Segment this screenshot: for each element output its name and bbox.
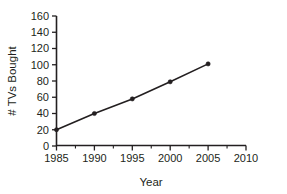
y-tick-label: 80 xyxy=(37,75,49,87)
data-point xyxy=(168,80,172,84)
y-tick-label: 20 xyxy=(37,124,49,136)
y-tick-label: 160 xyxy=(31,10,49,22)
x-tick-label: 1995 xyxy=(120,152,144,164)
data-point xyxy=(92,111,96,115)
x-tick-label: 2005 xyxy=(196,152,220,164)
y-tick-label: 100 xyxy=(31,59,49,71)
line-chart-svg: 0 20 40 60 80 100 120 140 160 xyxy=(0,0,287,194)
y-tick-label: 120 xyxy=(31,42,49,54)
y-tick-label: 140 xyxy=(31,26,49,38)
x-tick-label: 2000 xyxy=(158,152,182,164)
data-point xyxy=(206,62,210,66)
x-tick-label: 2010 xyxy=(234,152,258,164)
y-tick-label: 60 xyxy=(37,91,49,103)
x-tick-label: 1985 xyxy=(44,152,68,164)
y-axis-title: # TVs Bought xyxy=(6,45,18,115)
data-point xyxy=(130,97,134,101)
chart-container: 0 20 40 60 80 100 120 140 160 xyxy=(0,0,287,194)
data-point xyxy=(54,128,58,132)
y-tick-label: 40 xyxy=(37,107,49,119)
x-tick-label: 1990 xyxy=(82,152,106,164)
x-axis-title: Year xyxy=(139,176,162,188)
y-tick-label: 0 xyxy=(43,140,49,152)
